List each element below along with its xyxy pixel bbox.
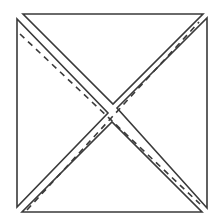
left-triangle [17, 19, 108, 207]
square-triangles-diagram [0, 0, 221, 220]
diagram-canvas [0, 0, 221, 220]
bottom-triangle [22, 122, 202, 212]
dashed-line-b [27, 22, 199, 210]
top-triangle [23, 14, 203, 104]
right-triangle [117, 18, 207, 208]
